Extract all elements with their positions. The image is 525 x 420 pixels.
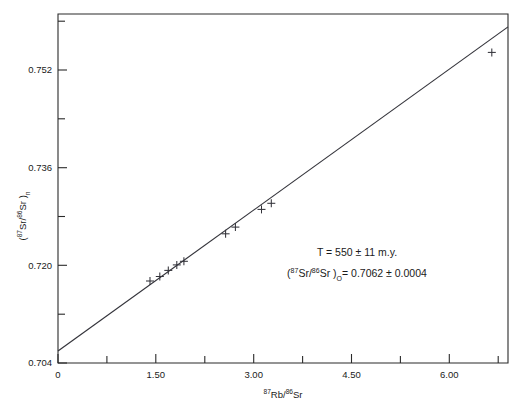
x-title-sr: Sr [293, 389, 303, 400]
y-ticklabel-3: 0.752 [28, 64, 52, 75]
y-title-sr-close: Sr ) [17, 195, 28, 210]
y-axis-tick-labels: 0.704 0.720 0.736 0.752 [28, 64, 52, 368]
x-ticklabel-4: 6.00 [440, 369, 459, 380]
annotation-initial-ratio-line: (87Sr/86Sr )O= 0.7062 ± 0.0004 [287, 267, 427, 282]
annotation-age-line: T = 550 ± 11 m.y. [317, 246, 397, 258]
x-ticklabel-2: 3.00 [244, 369, 263, 380]
y-ticklabel-1: 0.720 [28, 260, 52, 271]
annot-sr-slash: Sr/ [298, 267, 312, 279]
x-ticklabel-1: 1.50 [147, 369, 166, 380]
data-point-marker [222, 230, 230, 238]
x-axis-tick-labels: 0 1.50 3.00 4.50 6.00 [55, 369, 458, 380]
isochron-plot: 0.704 0.720 0.736 0.752 0 1.50 3.00 4.50… [0, 0, 525, 420]
x-axis-title: 87Rb/86Sr [264, 388, 303, 400]
data-point-marker [146, 277, 154, 285]
annot-sup-87: 87 [291, 267, 299, 274]
svg-text:87Rb/86Sr: 87Rb/86Sr [264, 388, 303, 400]
isochron-fit-line [58, 27, 508, 351]
isochron-figure: 0.704 0.720 0.736 0.752 0 1.50 3.00 4.50… [0, 0, 525, 420]
data-point-marker [488, 48, 496, 56]
svg-text:(87Sr/86Sr )n: (87Sr/86Sr )n [16, 191, 31, 240]
data-point-marker [231, 223, 239, 231]
annot-sr-close: Sr ) [320, 267, 337, 279]
x-ticklabel-0: 0 [55, 369, 60, 380]
y-title-sub-n: n [24, 191, 31, 195]
annotation-block: T = 550 ± 11 m.y. (87Sr/86Sr )O= 0.7062 … [287, 246, 427, 282]
y-title-sr-slash: Sr/ [17, 217, 28, 230]
annot-value-tail: = 0.7062 ± 0.0004 [342, 267, 427, 279]
fit-line-segment [58, 27, 508, 351]
x-axis-minor-ticks [107, 356, 498, 363]
y-axis-title: (87Sr/86Sr )n [16, 191, 31, 240]
y-ticklabel-0: 0.704 [28, 357, 52, 368]
data-point-marker [267, 199, 275, 207]
x-axis-major-ticks [58, 354, 449, 363]
x-ticklabel-3: 4.50 [342, 369, 361, 380]
x-title-rb: Rb/ [271, 389, 286, 400]
annot-sup-86: 86 [312, 267, 320, 274]
y-ticklabel-2: 0.736 [28, 162, 52, 173]
